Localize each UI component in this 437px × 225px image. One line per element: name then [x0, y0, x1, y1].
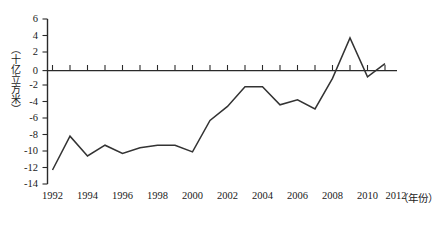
axis-group — [48, 19, 398, 184]
y-tick-label: -6 — [16, 112, 38, 123]
x-tick-label: 1996 — [103, 190, 143, 201]
x-tick-label: 2008 — [313, 190, 353, 201]
chart-figure: （十亿立方米） — [0, 0, 437, 225]
data-series-line — [53, 38, 386, 170]
x-axis-ticks — [53, 65, 386, 71]
y-tick-label: -12 — [16, 162, 38, 173]
y-tick-label: 0 — [16, 65, 38, 76]
y-tick-label: -8 — [16, 129, 38, 140]
y-tick-label: 6 — [16, 13, 38, 24]
y-tick-label: -4 — [16, 96, 38, 107]
y-tick-label: -2 — [16, 79, 38, 90]
x-tick-label: 1992 — [33, 190, 73, 201]
x-tick-label: 2000 — [173, 190, 213, 201]
y-tick-label: 2 — [16, 46, 38, 57]
y-tick-label: -14 — [16, 178, 38, 189]
y-tick-label: -10 — [16, 145, 38, 156]
x-axis-unit-label: （年份） — [398, 190, 437, 205]
y-axis-ticks — [43, 19, 48, 184]
x-tick-label: 1998 — [138, 190, 178, 201]
x-tick-label: 2004 — [243, 190, 283, 201]
y-tick-label: 4 — [16, 30, 38, 41]
x-tick-label: 2006 — [278, 190, 318, 201]
x-tick-label: 1994 — [68, 190, 108, 201]
x-tick-label: 2002 — [208, 190, 248, 201]
